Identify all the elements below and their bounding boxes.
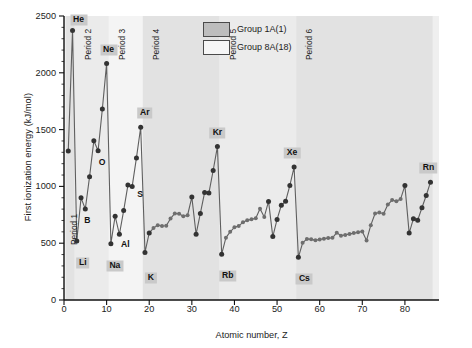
legend-item-group8a: Group 8A(18) bbox=[203, 38, 323, 56]
x-tick-label: 70 bbox=[347, 304, 377, 314]
element-label-kr: Kr bbox=[210, 127, 226, 138]
element-label-s: S bbox=[137, 191, 143, 200]
data-point bbox=[407, 231, 412, 236]
data-point bbox=[241, 220, 245, 224]
x-tick-label: 50 bbox=[262, 304, 292, 314]
ionization-energy-chart: First ionization energy (kJ/mol) Atomic … bbox=[0, 0, 472, 348]
y-tick-label: 1500 bbox=[20, 125, 56, 135]
data-point bbox=[134, 155, 139, 160]
data-point bbox=[245, 218, 249, 222]
legend-label-group1a: Group 1A(1) bbox=[237, 24, 287, 34]
data-point bbox=[262, 215, 266, 219]
data-point bbox=[339, 234, 343, 238]
element-label-he: He bbox=[70, 14, 87, 25]
x-tick-label: 10 bbox=[92, 304, 122, 314]
data-point bbox=[177, 212, 181, 216]
data-point bbox=[330, 236, 334, 240]
data-point bbox=[181, 214, 185, 218]
data-point bbox=[211, 168, 216, 173]
data-point bbox=[96, 148, 101, 153]
data-point bbox=[117, 232, 122, 237]
data-point bbox=[318, 237, 322, 241]
data-point bbox=[283, 199, 288, 204]
data-point bbox=[189, 195, 194, 200]
data-point bbox=[164, 224, 168, 228]
data-point bbox=[419, 205, 424, 210]
data-point bbox=[130, 184, 135, 189]
x-tick-label: 0 bbox=[49, 304, 79, 314]
x-axis-title: Atomic number, Z bbox=[64, 330, 439, 340]
data-point bbox=[151, 226, 155, 230]
period-label-4: Period 4 bbox=[151, 29, 161, 60]
element-label-rb: Rb bbox=[219, 271, 236, 282]
legend-swatch-open-icon bbox=[203, 40, 230, 55]
data-point bbox=[108, 241, 113, 246]
data-point bbox=[415, 218, 420, 223]
data-point bbox=[356, 230, 360, 234]
data-point bbox=[198, 211, 203, 216]
data-point bbox=[138, 125, 143, 130]
element-label-rn: Rn bbox=[420, 163, 437, 174]
data-point bbox=[147, 230, 152, 235]
data-point bbox=[411, 216, 416, 221]
legend-label-group8a: Group 8A(18) bbox=[237, 42, 292, 52]
data-point bbox=[215, 144, 220, 149]
data-point bbox=[202, 190, 207, 195]
data-point bbox=[83, 207, 88, 212]
x-tick-label: 40 bbox=[219, 304, 249, 314]
data-point bbox=[390, 198, 394, 202]
element-label-o: O bbox=[99, 158, 106, 167]
data-point bbox=[156, 223, 160, 227]
data-point bbox=[113, 214, 118, 219]
data-point bbox=[313, 238, 317, 242]
data-point bbox=[369, 223, 373, 227]
data-point bbox=[228, 230, 232, 234]
data-point bbox=[194, 232, 199, 237]
element-label-al: Al bbox=[121, 241, 130, 250]
period-label-3: Period 3 bbox=[117, 29, 127, 60]
x-tick-label: 80 bbox=[390, 304, 420, 314]
data-point bbox=[270, 234, 275, 239]
element-label-k: K bbox=[145, 273, 157, 284]
y-tick-label: 1000 bbox=[20, 181, 56, 191]
y-tick-label: 2500 bbox=[20, 11, 56, 21]
data-point bbox=[352, 231, 356, 235]
data-point bbox=[160, 224, 164, 228]
element-label-ne: Ne bbox=[100, 44, 117, 55]
x-tick-label: 20 bbox=[134, 304, 164, 314]
data-point bbox=[100, 107, 105, 112]
data-point bbox=[360, 229, 364, 233]
data-point bbox=[79, 195, 84, 200]
element-label-li: Li bbox=[76, 257, 90, 268]
data-point bbox=[142, 250, 147, 255]
data-point bbox=[237, 224, 241, 228]
data-point bbox=[224, 236, 228, 240]
data-point bbox=[186, 213, 190, 217]
data-point bbox=[326, 236, 330, 240]
data-point bbox=[382, 212, 386, 216]
data-point bbox=[104, 61, 109, 66]
data-point bbox=[373, 212, 377, 216]
data-point bbox=[365, 238, 369, 242]
element-label-cs: Cs bbox=[296, 274, 313, 285]
data-point bbox=[219, 252, 224, 257]
data-point bbox=[424, 193, 429, 198]
period-label-2: Period 2 bbox=[83, 29, 93, 60]
data-point bbox=[91, 138, 96, 143]
data-point bbox=[402, 183, 407, 188]
data-point bbox=[87, 174, 92, 179]
data-point bbox=[305, 237, 309, 241]
element-label-na: Na bbox=[106, 260, 123, 271]
element-label-ar: Ar bbox=[137, 108, 153, 119]
data-point bbox=[232, 225, 236, 229]
data-point bbox=[125, 183, 130, 188]
element-label-b: B bbox=[84, 216, 90, 225]
data-point bbox=[206, 191, 211, 196]
x-tick-label: 60 bbox=[305, 304, 335, 314]
legend-swatch-filled-icon bbox=[203, 22, 230, 37]
period-band-6 bbox=[296, 16, 432, 300]
legend-item-group1a: Group 1A(1) bbox=[203, 20, 323, 38]
period-label-1: Period 1 bbox=[69, 214, 79, 245]
data-point bbox=[266, 199, 271, 204]
data-point bbox=[343, 233, 347, 237]
